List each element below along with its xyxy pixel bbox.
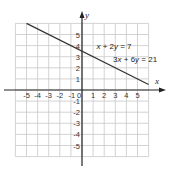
y-tick-label: -5 xyxy=(73,142,80,151)
equation-label: x + 2y = 7 xyxy=(95,42,132,51)
equation-label: 3x + 6y = 21 xyxy=(113,55,158,64)
y-tick-label: -1 xyxy=(73,97,80,106)
x-tick-label: 5 xyxy=(135,91,139,100)
axes: xy xyxy=(4,10,166,166)
x-tick-label: -5 xyxy=(23,91,30,100)
y-tick-label: 2 xyxy=(76,64,80,73)
x-tick-label: 1 xyxy=(91,91,95,100)
series xyxy=(27,23,149,84)
equation-part: = 21 xyxy=(139,55,158,64)
x-tick-label: 3 xyxy=(113,91,117,100)
y-axis-arrow-icon xyxy=(80,11,85,18)
y-tick-label: -3 xyxy=(73,119,80,128)
x-tick-label: -2 xyxy=(56,91,63,100)
x-axis-label: x xyxy=(154,76,159,86)
equation-part: + 2 xyxy=(100,42,114,51)
y-axis-label: y xyxy=(84,10,89,20)
x-tick-label: -3 xyxy=(45,91,52,100)
x-axis-arrow-icon xyxy=(159,88,166,93)
equation-part: = 7 xyxy=(118,42,132,51)
equation-part: + 6 xyxy=(122,55,136,64)
x-tick-label: 4 xyxy=(124,91,128,100)
x-tick-label: -4 xyxy=(34,91,41,100)
coordinate-plane: xy -5-4-3-2-101234554321-1-2-3-4-5 x + 2… xyxy=(0,0,169,173)
y-tick-label: -2 xyxy=(73,108,80,117)
y-tick-label: 3 xyxy=(76,53,80,62)
series-line xyxy=(27,23,149,84)
y-tick-label: 5 xyxy=(76,31,80,40)
y-tick-label: 1 xyxy=(76,75,80,84)
x-tick-label: 2 xyxy=(102,91,106,100)
y-tick-label: -4 xyxy=(73,130,80,139)
